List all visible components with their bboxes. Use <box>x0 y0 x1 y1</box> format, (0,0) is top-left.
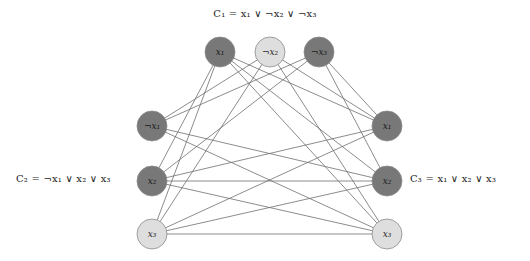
graph-node-c1l2[interactable]: ¬x₂ <box>255 37 285 67</box>
graph-node-c3l2[interactable]: x₂ <box>372 166 402 196</box>
graph-node-c1l3[interactable]: ¬x₃ <box>304 37 334 67</box>
graph-node-c3l1[interactable]: x₁ <box>372 111 402 141</box>
node-circle <box>372 166 402 196</box>
graph-edge <box>152 52 220 234</box>
node-circle <box>372 111 402 141</box>
graph-node-c2l2[interactable]: x₂ <box>137 166 167 196</box>
clause-label-c1: C₁ = x₁ ∨ ¬x₂ ∨ ¬x₃ <box>0 8 530 19</box>
graph-node-c2l1[interactable]: ¬x₁ <box>137 111 167 141</box>
node-circle <box>137 111 167 141</box>
clause-label-c3: C₃ = x₁ ∨ x₂ ∨ x₃ <box>410 173 496 184</box>
node-circle <box>372 219 402 249</box>
graph-node-c1l1[interactable]: x₁ <box>205 37 235 67</box>
node-circle <box>255 37 285 67</box>
graph-edge <box>220 52 387 126</box>
node-circle <box>205 37 235 67</box>
graph-canvas: x₁¬x₂¬x₃¬x₁x₂x₃x₁x₂x₃ <box>0 0 530 261</box>
node-layer: x₁¬x₂¬x₃¬x₁x₂x₃x₁x₂x₃ <box>137 37 402 249</box>
graph-edge <box>220 52 387 234</box>
figure-container: x₁¬x₂¬x₃¬x₁x₂x₃x₁x₂x₃ C₁ = x₁ ∨ ¬x₂ ∨ ¬x… <box>0 0 530 261</box>
node-circle <box>137 219 167 249</box>
node-circle <box>304 37 334 67</box>
edge-layer <box>152 52 387 234</box>
graph-node-c2l3[interactable]: x₃ <box>137 219 167 249</box>
clause-label-c2: C₂ = ¬x₁ ∨ x₂ ∨ x₃ <box>16 173 111 184</box>
node-circle <box>137 166 167 196</box>
graph-node-c3l3[interactable]: x₃ <box>372 219 402 249</box>
